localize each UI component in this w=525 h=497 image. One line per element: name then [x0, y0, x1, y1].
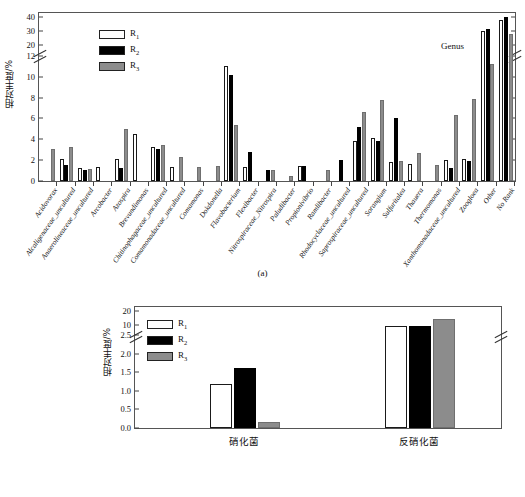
bar-r1 — [408, 164, 412, 181]
bar-r3 — [216, 166, 220, 181]
y-tick-label: 0.0 — [120, 424, 135, 433]
bar-r3 — [51, 149, 55, 181]
x-tick-mark — [349, 182, 350, 186]
bar-r3 — [433, 319, 455, 428]
bar-group — [222, 13, 240, 181]
bar-r2 — [248, 152, 252, 181]
legend-label-r3: R3 — [130, 60, 139, 72]
bar-r2 — [467, 161, 471, 181]
legend-label-r2: R2 — [178, 334, 187, 346]
y-tick-label: 40 — [27, 13, 40, 22]
x-tick-mark — [93, 182, 94, 186]
legend-swatch-r1 — [147, 320, 173, 329]
bar-group — [167, 13, 185, 181]
x-tick-mark — [203, 182, 204, 186]
bar-r3 — [258, 422, 280, 428]
figure-root: 相对丰度/% 024681012203040 R1 R2 R3 Genus — [0, 0, 525, 497]
panel-b: 相对丰度/% 0.00.51.01.52.02.51020 R1 R2 R3 — [0, 292, 525, 492]
bar-r2 — [83, 170, 87, 181]
bar-r1 — [151, 147, 155, 181]
x-tick-mark — [496, 182, 497, 186]
bar-group — [332, 13, 350, 181]
x-axis-label: 硝化菌 — [229, 434, 259, 448]
legend-swatch-r3 — [147, 352, 173, 361]
x-tick-mark — [404, 182, 405, 186]
bar-r2 — [302, 166, 306, 181]
legend-item-r3: R3 — [99, 59, 139, 73]
bar-group — [259, 13, 277, 181]
x-tick-mark — [514, 182, 515, 186]
bar-r3 — [362, 112, 366, 181]
bar-r2 — [64, 165, 68, 181]
x-tick-mark — [386, 182, 387, 186]
panel-b-plot-area: 0.00.51.01.52.02.51020 R1 R2 R3 — [134, 306, 502, 429]
bar-r2 — [266, 170, 270, 181]
legend-item-r1: R1 — [147, 317, 187, 331]
legend-label-r1: R1 — [130, 28, 139, 40]
bar-group — [185, 13, 203, 181]
bar-group — [442, 13, 460, 181]
x-tick-mark — [276, 182, 277, 186]
bar-r3 — [234, 125, 238, 181]
bar-r1 — [389, 162, 393, 181]
legend-item-r2: R2 — [99, 43, 139, 57]
bar-r3 — [509, 34, 513, 181]
bar-r1 — [115, 159, 119, 181]
bar-r1 — [133, 134, 137, 181]
x-tick-mark — [422, 182, 423, 186]
bar-r2 — [409, 326, 431, 428]
panel-a-annotation: Genus — [441, 41, 464, 51]
legend-label-r3: R3 — [178, 350, 187, 362]
y-tick-label: 2.0 — [120, 350, 135, 359]
bar-r3 — [69, 147, 73, 181]
bar-r2 — [156, 149, 160, 181]
bar-group — [76, 13, 94, 181]
x-tick-mark — [313, 182, 314, 186]
y-tick-label: 6 — [31, 114, 39, 123]
bar-group — [149, 13, 167, 181]
bar-r1 — [353, 141, 357, 181]
x-tick-mark — [130, 182, 131, 186]
panel-a-plot-area: 024681012203040 R1 R2 R3 Genus — [38, 12, 516, 182]
legend-label-r1: R1 — [178, 318, 187, 330]
bar-group — [277, 13, 295, 181]
x-tick-mark — [258, 182, 259, 186]
bar-r2 — [229, 75, 233, 181]
bar-r1 — [210, 384, 232, 428]
bar-r1 — [170, 167, 174, 181]
y-tick-label: 0.5 — [120, 405, 135, 414]
bar-r2 — [357, 127, 361, 181]
bar-r3 — [399, 161, 403, 181]
y-tick-label: 10 — [27, 72, 40, 81]
bar-group — [369, 13, 387, 181]
legend-item-r1: R1 — [99, 27, 139, 41]
bar-group — [204, 13, 222, 181]
y-tick-label: 30 — [27, 27, 40, 36]
bar-group — [405, 13, 423, 181]
y-tick-label: 8 — [31, 93, 39, 102]
bar-r1 — [78, 168, 82, 181]
panel-b-bars — [135, 307, 501, 428]
panel-b-y-axis-label: 相对丰度/% — [100, 328, 113, 376]
y-tick-label: 0 — [31, 177, 39, 186]
y-tick-label: 12 — [27, 52, 40, 61]
bar-r1 — [96, 167, 100, 181]
y-tick-label: 1.5 — [120, 368, 135, 377]
bar-r3 — [435, 165, 439, 181]
bar-r1 — [499, 20, 503, 181]
bar-r2 — [486, 29, 490, 181]
bar-r3 — [197, 167, 201, 181]
x-tick-mark — [459, 182, 460, 186]
panel-b-legend: R1 R2 R3 — [147, 317, 187, 365]
bar-r3 — [124, 129, 128, 181]
bar-group — [314, 13, 332, 181]
bar-group — [423, 13, 441, 181]
panel-a: 相对丰度/% 024681012203040 R1 R2 R3 Genus — [0, 0, 525, 285]
bar-r2 — [394, 118, 398, 181]
x-tick-mark — [221, 182, 222, 186]
bar-group — [295, 13, 313, 181]
bar-r2 — [376, 141, 380, 181]
bar-r3 — [417, 153, 421, 181]
bar-r1 — [385, 326, 407, 428]
bar-group — [387, 13, 405, 181]
